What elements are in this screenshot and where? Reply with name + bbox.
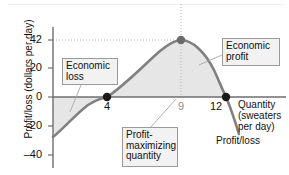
economic-profit-region — [107, 40, 226, 97]
curve-name-label: Profit/loss — [216, 136, 260, 146]
profit-loss-chart-figure: Profit/loss (dollars per day) 42 20 0 –2… — [0, 0, 289, 175]
point-break-even-high — [222, 93, 230, 101]
x-tick-label-9: 9 — [173, 101, 189, 112]
x-axis-title-line-1: Quantity — [238, 100, 275, 111]
y-tick-label-42: 42 — [14, 34, 42, 45]
y-axis-title: Profit/loss (dollars per day) — [24, 4, 34, 154]
x-axis-title-line-3: per day) — [238, 122, 275, 133]
point-profit-max — [177, 36, 185, 44]
y-tick-label-20: 20 — [14, 62, 42, 73]
x-tick-label-12: 12 — [207, 101, 225, 112]
callout-profit-maximizing-quantity: Profit- maximizing quantity — [122, 127, 178, 167]
y-tick-label-minus-20: –20 — [10, 120, 42, 131]
y-tick-label-minus-40: –40 — [10, 149, 42, 160]
callout-economic-profit: Economic profit — [222, 38, 280, 66]
y-tick-label-0: 0 — [14, 91, 42, 102]
callout-economic-loss: Economic loss — [62, 58, 118, 85]
x-axis-title-line-2: (sweaters — [238, 111, 281, 122]
x-tick-label-4: 4 — [99, 101, 115, 112]
